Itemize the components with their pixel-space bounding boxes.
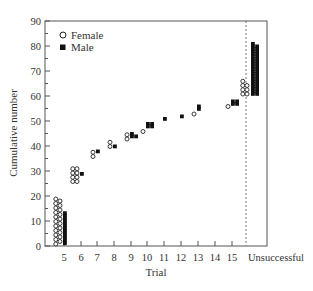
female-marker bbox=[71, 175, 75, 179]
female-marker bbox=[54, 224, 58, 228]
x-tick-label: 8 bbox=[111, 252, 116, 263]
male-marker bbox=[150, 122, 154, 126]
plot-frame bbox=[45, 21, 267, 246]
female-marker bbox=[241, 84, 245, 88]
y-tick-label: 40 bbox=[31, 141, 42, 152]
female-marker bbox=[71, 167, 75, 171]
y-tick-label: 20 bbox=[31, 191, 42, 202]
y-tick-label: 70 bbox=[31, 66, 42, 77]
female-marker bbox=[245, 84, 249, 88]
female-marker bbox=[54, 229, 58, 233]
y-tick-label: 30 bbox=[31, 166, 42, 177]
legend: Female Male bbox=[60, 29, 103, 53]
female-marker bbox=[58, 217, 62, 221]
female-marker bbox=[58, 204, 62, 208]
female-marker bbox=[226, 105, 230, 109]
female-marker bbox=[54, 220, 58, 224]
male-marker bbox=[134, 135, 138, 139]
x-tick-label: 10 bbox=[142, 252, 153, 263]
legend-male-label: Male bbox=[71, 41, 94, 53]
male-legend-icon bbox=[60, 45, 66, 51]
male-marker bbox=[180, 115, 184, 119]
female-marker bbox=[71, 171, 75, 175]
y-tick-label: 60 bbox=[31, 91, 42, 102]
male-marker bbox=[80, 172, 84, 176]
female-marker bbox=[245, 88, 249, 92]
female-marker bbox=[58, 226, 62, 230]
male-marker bbox=[130, 132, 134, 136]
female-marker bbox=[54, 206, 58, 210]
male-marker bbox=[255, 45, 259, 49]
y-tick-label: 90 bbox=[31, 16, 42, 27]
female-marker bbox=[75, 180, 79, 184]
female-marker bbox=[75, 175, 79, 179]
x-tick-label: Unsuccessful bbox=[248, 252, 304, 263]
female-marker bbox=[125, 137, 129, 141]
female-marker bbox=[241, 88, 245, 92]
female-marker bbox=[58, 240, 62, 244]
male-marker bbox=[63, 211, 67, 215]
female-marker bbox=[54, 242, 58, 246]
y-tick-label: 50 bbox=[31, 116, 42, 127]
male-marker bbox=[231, 100, 235, 104]
y-tick-label: 10 bbox=[31, 216, 42, 227]
x-tick-label: 6 bbox=[78, 252, 83, 263]
female-marker bbox=[58, 222, 62, 226]
male-marker bbox=[235, 100, 239, 104]
female-marker bbox=[75, 167, 79, 171]
x-tick-label: 15 bbox=[227, 252, 238, 263]
female-marker bbox=[75, 171, 79, 175]
female-marker bbox=[125, 133, 129, 137]
male-marker bbox=[146, 122, 150, 126]
y-axis: 0102030405060708090 bbox=[31, 16, 51, 252]
female-marker bbox=[58, 208, 62, 212]
male-marker bbox=[197, 105, 201, 109]
female-marker bbox=[54, 233, 58, 237]
y-axis-title: Cumulative number bbox=[7, 89, 19, 177]
chart: 0102030405060708090 56789101112131415Uns… bbox=[0, 0, 313, 291]
female-marker bbox=[58, 235, 62, 239]
male-marker bbox=[251, 42, 255, 46]
y-tick-label: 80 bbox=[31, 41, 42, 52]
male-marker bbox=[163, 117, 167, 121]
female-marker bbox=[54, 215, 58, 219]
female-marker bbox=[241, 79, 245, 83]
x-tick-label: 9 bbox=[128, 252, 133, 263]
x-axis-title: Trial bbox=[146, 266, 167, 278]
female-marker bbox=[71, 180, 75, 184]
female-marker bbox=[245, 92, 249, 96]
female-marker bbox=[54, 211, 58, 215]
y-tick-label: 0 bbox=[36, 241, 41, 252]
female-marker bbox=[54, 197, 58, 201]
female-marker bbox=[192, 112, 196, 116]
female-marker bbox=[54, 202, 58, 206]
male-marker bbox=[96, 150, 100, 154]
x-tick-label: 12 bbox=[176, 252, 187, 263]
data-points bbox=[54, 42, 259, 246]
female-marker bbox=[91, 150, 95, 154]
female-marker bbox=[58, 199, 62, 203]
female-legend-icon bbox=[60, 32, 66, 38]
female-marker bbox=[108, 140, 112, 144]
female-marker bbox=[91, 155, 95, 159]
female-marker bbox=[108, 145, 112, 149]
female-marker bbox=[58, 231, 62, 235]
female-marker bbox=[54, 238, 58, 242]
legend-female-label: Female bbox=[71, 29, 103, 41]
x-tick-label: 11 bbox=[159, 252, 169, 263]
x-axis: 56789101112131415Unsuccessful bbox=[61, 241, 304, 263]
female-marker bbox=[241, 92, 245, 96]
x-tick-label: 7 bbox=[94, 252, 99, 263]
x-tick-label: 13 bbox=[193, 252, 204, 263]
female-marker bbox=[141, 130, 145, 134]
male-marker bbox=[113, 145, 117, 149]
x-tick-label: 5 bbox=[61, 252, 66, 263]
female-marker bbox=[58, 213, 62, 217]
x-tick-label: 14 bbox=[210, 252, 221, 263]
